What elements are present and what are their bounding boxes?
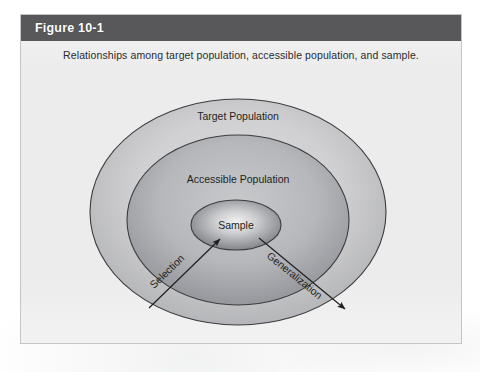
figure-title-bar: Figure 10-1 [21, 15, 461, 41]
target-population-label: Target Population [197, 110, 279, 122]
sample-label: Sample [218, 219, 254, 231]
figure-number-label: Figure 10-1 [35, 21, 104, 35]
venn-diagram-svg: Target Population Accessible Population … [21, 41, 463, 345]
figure-panel: Figure 10-1 Relationships among target p… [20, 14, 462, 344]
region-sample: Sample [191, 200, 281, 250]
scanned-page: Figure 10-1 Relationships among target p… [0, 0, 480, 372]
venn-diagram: Target Population Accessible Population … [21, 41, 463, 345]
accessible-population-label: Accessible Population [187, 173, 290, 185]
